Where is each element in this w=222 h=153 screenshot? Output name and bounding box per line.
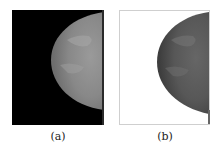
- mammogram-processed-image: [119, 10, 211, 125]
- panel-a-caption: (a): [38, 130, 78, 143]
- panel-b-caption: (b): [145, 130, 185, 143]
- panel-a-image: [12, 10, 104, 125]
- panel-b-image: [119, 10, 211, 125]
- mammogram-original-image: [12, 10, 104, 125]
